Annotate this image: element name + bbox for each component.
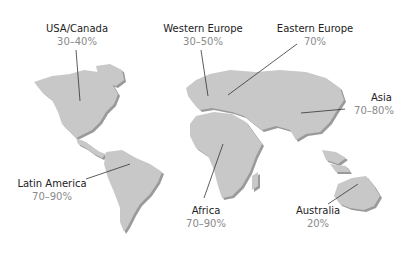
region-name: Asia bbox=[346, 92, 402, 105]
label-australia: Australia 20% bbox=[288, 205, 348, 230]
label-western-europe: Western Europe 30–50% bbox=[158, 23, 248, 48]
region-name: Eastern Europe bbox=[270, 23, 360, 36]
uk-shape bbox=[200, 78, 206, 92]
region-value: 30–40% bbox=[38, 36, 116, 49]
region-value: 20% bbox=[288, 218, 348, 231]
sea-islands-shape bbox=[322, 150, 350, 172]
central-america-shape bbox=[76, 138, 106, 158]
region-value: 70–90% bbox=[12, 191, 92, 204]
region-name: Latin America bbox=[12, 178, 92, 191]
region-value: 30–50% bbox=[158, 36, 248, 49]
region-value: 70% bbox=[270, 36, 360, 49]
label-eastern-europe: Eastern Europe 70% bbox=[270, 23, 360, 48]
region-name: USA/Canada bbox=[38, 23, 116, 36]
label-africa: Africa 70–90% bbox=[176, 205, 236, 230]
label-usa-canada: USA/Canada 30–40% bbox=[38, 23, 116, 48]
label-latin-america: Latin America 70–90% bbox=[12, 178, 92, 203]
region-name: Western Europe bbox=[158, 23, 248, 36]
region-value: 70–80% bbox=[346, 105, 402, 118]
label-asia: Asia 70–80% bbox=[346, 92, 402, 117]
south-america-shape bbox=[104, 150, 162, 232]
africa-shape bbox=[190, 112, 262, 198]
region-name: Africa bbox=[176, 205, 236, 218]
region-name: Australia bbox=[288, 205, 348, 218]
region-value: 70–90% bbox=[176, 218, 236, 231]
madagascar-shape bbox=[252, 172, 258, 190]
